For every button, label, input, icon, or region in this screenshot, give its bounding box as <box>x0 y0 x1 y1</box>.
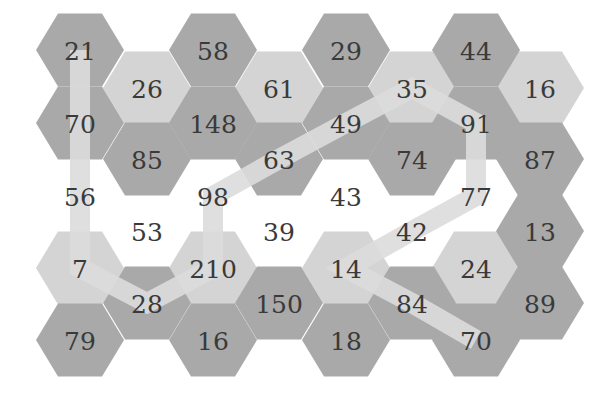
hex-value: 61 <box>263 75 295 104</box>
hex-value: 79 <box>64 327 96 356</box>
hex-value: 70 <box>460 327 492 356</box>
hex-value: 210 <box>189 255 237 284</box>
hex-value: 29 <box>330 37 362 66</box>
hex-value: 43 <box>330 183 362 212</box>
hex-value: 85 <box>131 146 163 175</box>
hex-value: 87 <box>524 146 556 175</box>
hex-value: 14 <box>330 255 362 284</box>
hex-value: 44 <box>460 37 492 66</box>
hex-value: 84 <box>396 290 428 319</box>
hex-value: 49 <box>330 110 362 139</box>
hex-value: 13 <box>524 218 556 247</box>
hex-value: 70 <box>64 110 96 139</box>
hex-value: 89 <box>524 290 556 319</box>
hex-puzzle-board: 2170567792685532858148982101661633915029… <box>0 0 611 403</box>
hex-value: 7 <box>72 255 88 284</box>
hex-value: 16 <box>524 75 556 104</box>
hex-value: 91 <box>460 110 492 139</box>
hex-cells-layer <box>36 14 584 377</box>
hex-value: 28 <box>131 290 163 319</box>
hex-value: 24 <box>460 255 492 284</box>
hex-value: 56 <box>64 183 96 212</box>
hex-value: 21 <box>64 37 96 66</box>
hex-value: 150 <box>255 290 303 319</box>
hex-value: 26 <box>131 75 163 104</box>
hex-value: 98 <box>197 183 229 212</box>
hex-value: 42 <box>396 218 428 247</box>
hex-value: 16 <box>197 327 229 356</box>
hex-value: 148 <box>189 110 237 139</box>
hex-value: 58 <box>197 37 229 66</box>
hex-value: 74 <box>396 146 428 175</box>
hex-value: 63 <box>263 146 295 175</box>
hex-value: 35 <box>396 75 428 104</box>
hex-value: 53 <box>131 218 163 247</box>
hex-value: 39 <box>263 218 295 247</box>
hex-value: 18 <box>330 327 362 356</box>
hex-value: 77 <box>460 183 492 212</box>
